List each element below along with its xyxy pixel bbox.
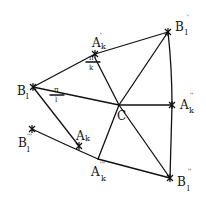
- svg-text:k: k: [85, 134, 90, 143]
- svg-text:B: B: [17, 84, 26, 98]
- svg-text:l: l: [187, 184, 190, 193]
- svg-text:C: C: [117, 109, 126, 123]
- spoke-C-Ak1: [95, 58, 119, 105]
- svg-text:l: l: [26, 92, 29, 101]
- svg-text:l: l: [55, 96, 58, 104]
- svg-text:l: l: [185, 28, 188, 37]
- svg-text:B: B: [175, 20, 184, 34]
- label-C: C: [117, 109, 126, 123]
- svg-text:'': '': [190, 91, 194, 98]
- svg-text:A: A: [90, 165, 100, 179]
- point-labels: B l A k ' B l ' C A k '' B l '' A k '': [17, 13, 194, 193]
- svg-text:B: B: [18, 136, 27, 150]
- svg-text:k: k: [89, 64, 94, 72]
- svg-text:k: k: [101, 42, 106, 51]
- star-icon-Ak: [76, 142, 82, 150]
- svg-text:A: A: [179, 98, 189, 112]
- svg-text:A: A: [75, 129, 85, 143]
- svg-text:π: π: [54, 86, 59, 94]
- svg-text:l: l: [27, 145, 30, 154]
- geometric-diagram: B l A k ' B l ' C A k '' B l '' A k '': [0, 0, 206, 198]
- label-Ak2: A k '': [179, 91, 194, 115]
- svg-text:A: A: [91, 36, 101, 50]
- label-Bl2: B l '': [177, 167, 192, 193]
- edge-Ak2-Bl2: [170, 105, 172, 178]
- label-Bl3: B l ''': [18, 132, 32, 154]
- spoke-Bl-C: [33, 87, 119, 105]
- svg-text:''': ''': [100, 160, 105, 167]
- label-Bl1: B l ': [175, 13, 189, 37]
- svg-text:'': '': [188, 167, 192, 174]
- spokes-from-C: [33, 32, 172, 178]
- svg-text:': ': [187, 13, 189, 20]
- svg-text:''': ''': [27, 132, 32, 139]
- edge-Ak1-Bl1: [95, 32, 168, 54]
- svg-text:π: π: [89, 54, 94, 62]
- label-Ak1: A k ': [91, 31, 106, 51]
- spoke-C-Ak3: [98, 105, 119, 159]
- svg-text:k: k: [101, 174, 106, 183]
- angle-label-Ak1: π k: [89, 54, 94, 72]
- edge-Bl1-Ak2: [168, 32, 172, 105]
- label-Bl: B l: [17, 84, 29, 101]
- svg-text:B: B: [177, 175, 186, 189]
- spoke-C-Bl1: [119, 32, 168, 105]
- label-Ak3: A k ''': [90, 160, 106, 183]
- edge-Bl-Ak1: [33, 54, 95, 87]
- svg-text:k: k: [189, 106, 194, 115]
- svg-text:': ': [100, 31, 102, 38]
- label-Ak: A k: [75, 129, 90, 143]
